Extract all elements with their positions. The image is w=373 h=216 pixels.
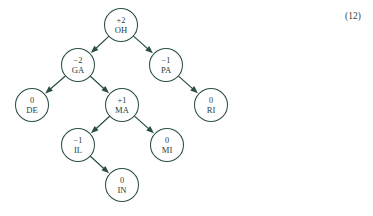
edge-ma-to-il <box>91 117 109 134</box>
node-value: +1 <box>118 96 127 105</box>
node-ma[interactable]: +1MA <box>106 89 139 122</box>
node-value: 0 <box>120 176 124 185</box>
node-mi[interactable]: 0MI <box>151 129 184 162</box>
node-value: 0 <box>165 136 169 145</box>
edge-pa-to-ri <box>179 76 198 93</box>
node-value: −2 <box>74 56 83 65</box>
node-label: RI <box>207 105 216 115</box>
node-label: IN <box>117 185 127 195</box>
edge-ga-to-ma <box>91 77 109 94</box>
node-in[interactable]: 0IN <box>106 169 139 202</box>
node-oh[interactable]: +2OH <box>105 9 138 42</box>
node-value: −1 <box>162 56 171 65</box>
nodes-group: +2OH−2GA−1PA0DE+1MA0RI−1IL0MI0IN <box>16 9 228 202</box>
figure-root: +2OH−2GA−1PA0DE+1MA0RI−1IL0MI0IN (12) <box>0 0 373 216</box>
node-de[interactable]: 0DE <box>16 89 49 122</box>
edge-oh-to-ga <box>91 37 109 53</box>
node-label: IL <box>74 145 82 155</box>
node-pa[interactable]: −1PA <box>150 49 183 82</box>
edge-ma-to-mi <box>135 116 154 133</box>
tree-diagram: +2OH−2GA−1PA0DE+1MA0RI−1IL0MI0IN <box>0 0 373 216</box>
node-label: GA <box>72 65 85 75</box>
node-ri[interactable]: 0RI <box>195 89 228 122</box>
node-ga[interactable]: −2GA <box>62 49 95 82</box>
node-label: DE <box>26 105 37 115</box>
node-label: MI <box>162 145 173 155</box>
node-value: 0 <box>30 96 34 105</box>
node-value: 0 <box>209 96 213 105</box>
edge-il-to-in <box>91 157 109 174</box>
node-label: OH <box>115 25 127 35</box>
equation-number: (12) <box>345 11 361 21</box>
node-il[interactable]: −1IL <box>62 129 95 162</box>
edge-oh-to-pa <box>134 36 153 53</box>
node-value: +2 <box>117 16 126 25</box>
node-label: PA <box>161 65 172 75</box>
node-value: −1 <box>74 136 83 145</box>
edge-ga-to-de <box>45 76 65 93</box>
node-label: MA <box>115 105 130 115</box>
